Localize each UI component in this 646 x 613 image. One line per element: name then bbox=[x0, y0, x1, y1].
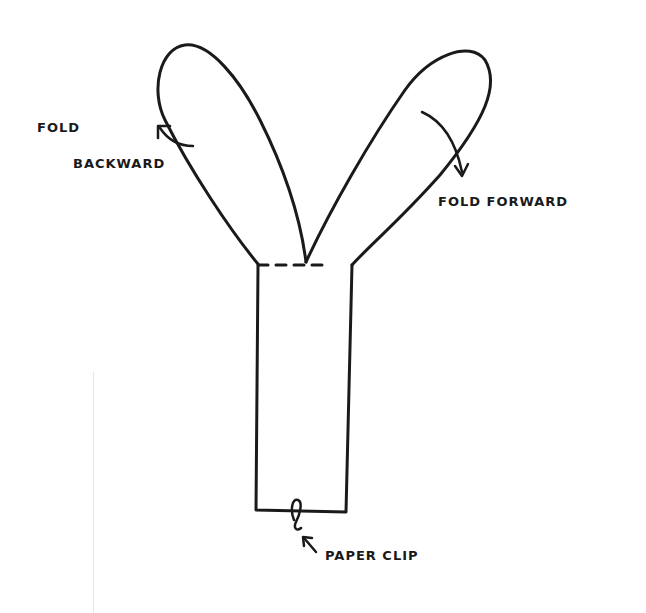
paper-clip-arrow bbox=[304, 538, 316, 552]
fold-backward-arrow bbox=[160, 128, 193, 146]
label-fold-backward-line1: FOLD bbox=[37, 120, 80, 135]
left-wing bbox=[158, 45, 306, 264]
paper-clip-icon bbox=[292, 500, 301, 530]
label-fold-forward: FOLD FORWARD bbox=[438, 194, 568, 209]
fold-forward-arrow bbox=[422, 112, 462, 172]
stem-body bbox=[256, 265, 352, 512]
label-fold-backward-line2: BACKWARD bbox=[73, 156, 165, 171]
label-paper-clip: PAPER CLIP bbox=[325, 548, 419, 563]
right-wing bbox=[306, 51, 491, 265]
helicopter-diagram bbox=[0, 0, 646, 613]
